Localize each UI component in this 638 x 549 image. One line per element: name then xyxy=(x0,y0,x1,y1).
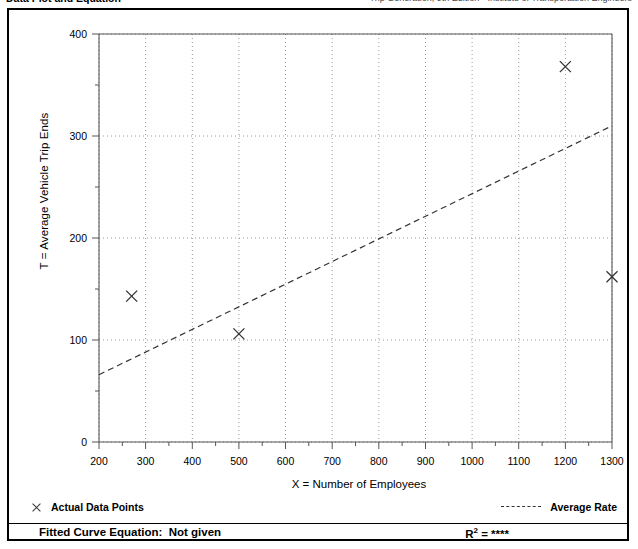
x-tick-label: 300 xyxy=(137,455,155,467)
chart-card: 0 100 200 300 400 200 300 400 500 600 70… xyxy=(7,8,629,541)
y-tick-label: 100 xyxy=(69,334,87,346)
grid-lines xyxy=(99,34,612,442)
x-tick-label: 600 xyxy=(277,455,295,467)
legend-label-data-points: Actual Data Points xyxy=(51,501,144,513)
y-tick-labels: 0 100 200 300 400 xyxy=(69,28,87,448)
y-tick-label: 300 xyxy=(69,130,87,142)
y-tick-label: 200 xyxy=(69,232,87,244)
x-tick-label: 900 xyxy=(417,455,435,467)
x-tick-label: 800 xyxy=(370,455,388,467)
x-tick-label: 200 xyxy=(90,455,108,467)
x-tick-labels: 200 300 400 500 600 700 800 900 1000 110… xyxy=(90,455,624,467)
chart-legend: Actual Data Points Average Rate xyxy=(9,497,627,523)
x-tick-label: 1200 xyxy=(554,455,578,467)
fitted-curve-label: Fitted Curve Equation: xyxy=(39,526,162,538)
x-tick-label: 1100 xyxy=(507,455,530,467)
chart-footer: Fitted Curve Equation: Not given R2 = **… xyxy=(9,524,627,542)
legend-label-average-rate: Average Rate xyxy=(550,501,617,513)
r-squared: R2 = **** xyxy=(465,526,509,540)
x-marker-icon xyxy=(31,502,42,513)
fitted-curve-equation: Fitted Curve Equation: Not given xyxy=(39,526,221,538)
plot-area: 0 100 200 300 400 200 300 400 500 600 70… xyxy=(9,10,627,496)
page-header-title: Data Plot and Equation xyxy=(6,0,121,4)
y-tick-label: 400 xyxy=(69,28,87,40)
x-axis-title: X = Number of Employees xyxy=(99,478,619,490)
x-tick-label: 400 xyxy=(184,455,202,467)
fitted-curve-value: Not given xyxy=(169,526,221,538)
r-squared-equals: = xyxy=(481,528,488,540)
y-axis-title: T = Average Vehicle Trip Ends xyxy=(38,76,50,306)
legend-item-data-points: Actual Data Points xyxy=(31,501,144,513)
scatter-plot-svg: 0 100 200 300 400 200 300 400 500 600 70… xyxy=(9,10,627,496)
average-rate-line xyxy=(99,126,612,375)
x-axis-ticks xyxy=(99,442,612,449)
r-squared-value: **** xyxy=(491,528,509,540)
y-tick-label: 0 xyxy=(81,436,87,448)
x-tick-label: 1000 xyxy=(460,455,484,467)
legend-item-average-rate: Average Rate xyxy=(501,501,617,513)
data-point-markers xyxy=(126,61,617,339)
dashed-line-icon xyxy=(501,506,541,508)
page-header-source: Trip Generation, 9th Edition • Institute… xyxy=(370,0,632,3)
r-squared-exponent: 2 xyxy=(474,526,478,535)
r-squared-label: R xyxy=(465,528,473,540)
x-tick-label: 500 xyxy=(230,455,248,467)
y-axis-ticks xyxy=(92,34,99,442)
data-point-marker xyxy=(126,291,137,302)
x-tick-label: 1300 xyxy=(600,455,624,467)
x-tick-label: 700 xyxy=(323,455,341,467)
